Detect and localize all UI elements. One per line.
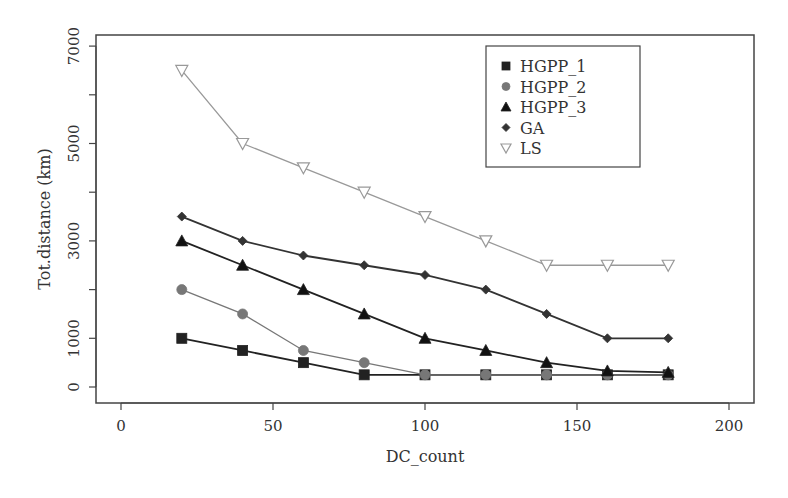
data-point — [297, 163, 309, 174]
legend-label: HGPP_3 — [520, 98, 586, 117]
data-point — [177, 285, 187, 295]
data-point — [298, 358, 308, 368]
legend-marker-icon — [502, 83, 510, 91]
data-point — [238, 236, 247, 245]
data-point — [419, 332, 431, 343]
y-tick-label: 7000 — [65, 27, 83, 65]
data-point — [664, 334, 673, 343]
data-point — [542, 370, 552, 380]
data-point — [359, 358, 369, 368]
x-tick-label: 0 — [116, 417, 126, 435]
data-point — [238, 309, 248, 319]
x-tick-label: 100 — [411, 417, 440, 435]
y-tick-label: 3000 — [65, 222, 83, 260]
data-point — [360, 261, 369, 270]
y-tick-label: 1000 — [65, 319, 83, 357]
y-tick-label: 0 — [65, 382, 83, 392]
data-point — [177, 333, 187, 343]
legend-label: LS — [520, 139, 542, 158]
data-point — [298, 345, 308, 355]
legend-label: HGPP_1 — [520, 57, 586, 76]
y-axis-label: Tot.distance (km) — [35, 148, 54, 289]
data-point — [358, 308, 370, 319]
data-point — [299, 251, 308, 260]
series-hgpp-3 — [176, 235, 674, 377]
line-chart: 050100150200 01000300050007000 DC_count … — [0, 0, 788, 498]
data-point — [419, 212, 431, 223]
data-point — [176, 235, 188, 246]
data-point — [481, 370, 491, 380]
data-point — [481, 285, 490, 294]
legend-label: GA — [520, 119, 545, 138]
data-point — [603, 334, 612, 343]
data-point — [177, 212, 186, 221]
data-point — [237, 139, 249, 150]
y-tick-label: 5000 — [65, 124, 83, 162]
x-tick-label: 50 — [263, 417, 282, 435]
x-tick-label: 150 — [563, 417, 592, 435]
data-point — [358, 187, 370, 198]
data-point — [238, 345, 248, 355]
x-axis: 050100150200 — [116, 403, 743, 435]
x-axis-label: DC_count — [386, 447, 465, 466]
series-ga — [177, 212, 672, 343]
data-point — [480, 236, 492, 247]
data-point — [542, 309, 551, 318]
chart: 050100150200 01000300050007000 DC_count … — [0, 0, 788, 498]
legend-marker-icon — [502, 62, 510, 70]
y-axis: 01000300050007000 — [65, 27, 96, 392]
legend: HGPP_1HGPP_2HGPP_3GALS — [486, 46, 640, 167]
legend-label: HGPP_2 — [520, 78, 586, 97]
data-point — [237, 259, 249, 270]
data-point — [297, 284, 309, 295]
x-tick-label: 200 — [715, 417, 744, 435]
data-point — [421, 270, 430, 279]
data-point — [420, 370, 430, 380]
data-point — [359, 370, 369, 380]
